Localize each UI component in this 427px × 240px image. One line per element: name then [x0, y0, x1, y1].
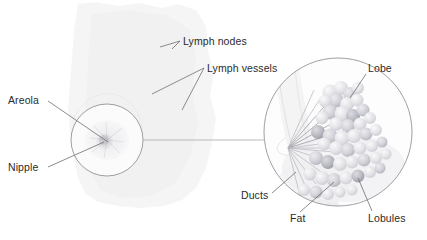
label-ducts: Ducts — [241, 189, 268, 201]
label-lymph-nodes: Lymph nodes — [183, 35, 247, 47]
label-lobules: Lobules — [368, 212, 405, 224]
label-areola: Areola — [8, 94, 39, 106]
label-fat: Fat — [290, 212, 305, 224]
anatomy-illustration: Areola Nipple Lymph nodes Lymph vessels … — [0, 0, 427, 240]
label-nipple: Nipple — [8, 161, 38, 173]
label-lobe: Lobe — [368, 62, 392, 74]
breast-anatomy-figure: Areola Nipple Lymph nodes Lymph vessels … — [0, 0, 427, 240]
nipple-areola-closeup — [71, 104, 143, 176]
label-lymph-vessels: Lymph vessels — [207, 62, 277, 74]
internal-structure-closeup — [264, 56, 412, 206]
torso-silhouette — [68, 2, 216, 208]
